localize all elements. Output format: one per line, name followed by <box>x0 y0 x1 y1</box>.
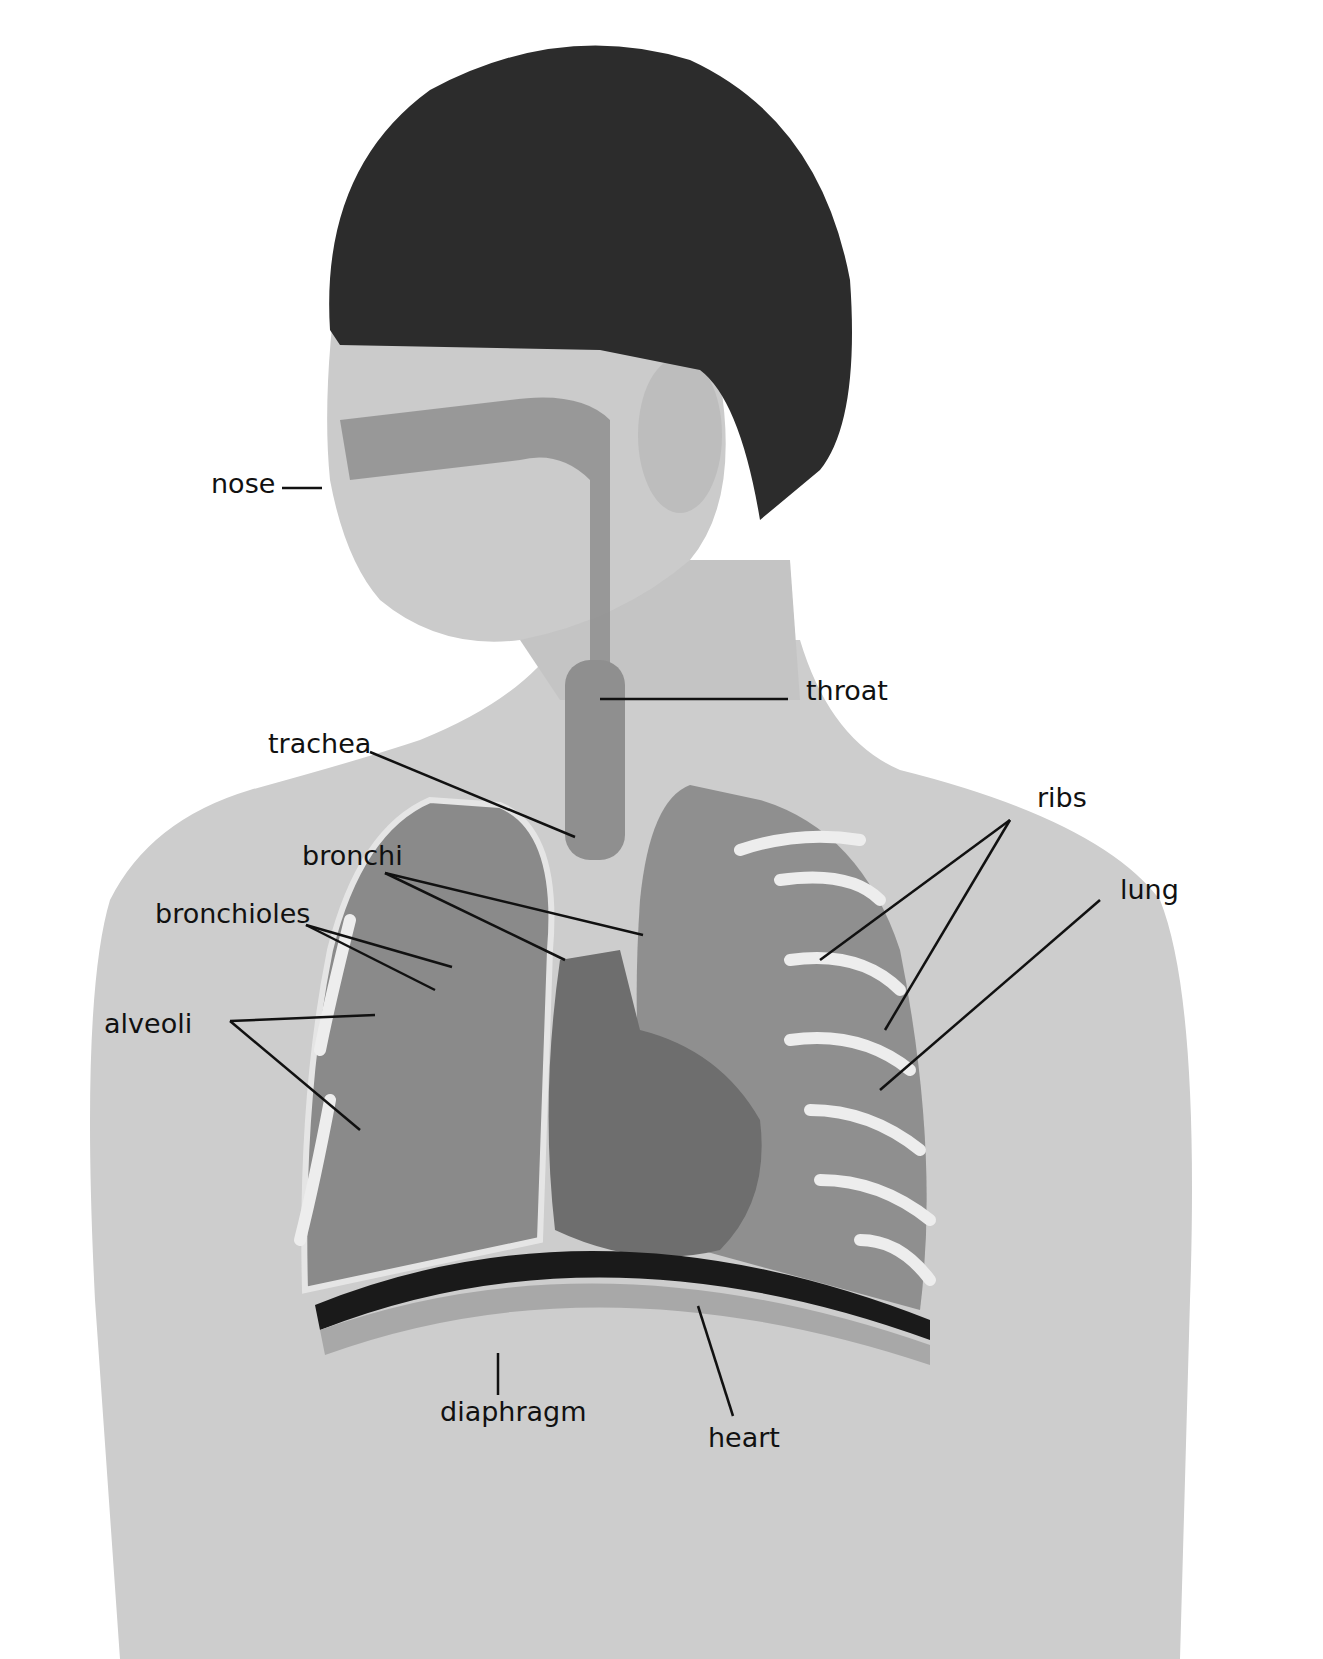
label-heart: heart <box>708 1424 780 1451</box>
label-throat: throat <box>806 677 888 704</box>
label-bronchi: bronchi <box>302 842 403 869</box>
respiratory-diagram: nose throat trachea ribs bronchi lung br… <box>0 0 1323 1659</box>
illustration <box>0 0 1323 1659</box>
label-diaphragm: diaphragm <box>440 1398 587 1425</box>
label-trachea: trachea <box>268 730 371 757</box>
ear <box>638 357 722 513</box>
label-lung: lung <box>1120 876 1179 903</box>
trachea-shape <box>565 660 625 860</box>
label-ribs: ribs <box>1037 784 1087 811</box>
label-alveoli: alveoli <box>104 1010 192 1037</box>
label-nose: nose <box>211 470 275 497</box>
label-bronchioles: bronchioles <box>155 900 310 927</box>
